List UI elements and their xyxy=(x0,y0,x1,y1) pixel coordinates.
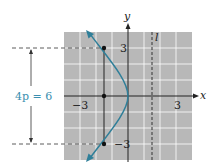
y-axis-label: y xyxy=(123,10,131,23)
directrix-label: l xyxy=(155,31,159,44)
dimension-arrow-down-icon xyxy=(29,138,33,143)
x-axis-label: x xyxy=(200,89,207,102)
latus-point-top xyxy=(102,46,106,50)
y-axis-arrow-icon xyxy=(126,23,131,29)
parabola-diagram: x y l −3 3 3 −3 4p = 6 xyxy=(0,0,213,167)
tick-y-pos: 3 xyxy=(120,42,127,55)
tick-y-neg: −3 xyxy=(114,138,130,151)
latus-point-bottom xyxy=(102,142,106,146)
tick-x-pos: 3 xyxy=(174,99,181,112)
dimension-arrow-up-icon xyxy=(29,49,33,54)
x-axis-arrow-icon xyxy=(193,94,199,99)
focus-point xyxy=(102,94,106,98)
tick-x-neg: −3 xyxy=(72,99,88,112)
focal-width-label: 4p = 6 xyxy=(15,90,52,103)
